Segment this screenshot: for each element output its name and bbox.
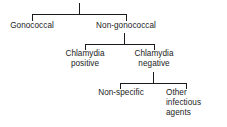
node-other-infectious-agents: Other infectious agents <box>166 88 201 119</box>
classification-tree-diagram: Gonococcal Non-gonococcal Chlamydia posi… <box>0 0 227 127</box>
node-non-gonococcal: Non-gonococcal <box>96 21 156 31</box>
node-non-specific: Non-specific <box>98 88 144 98</box>
node-chlamydia-positive: Chlamydia positive <box>65 49 104 69</box>
node-chlamydia-negative: Chlamydia negative <box>134 49 173 69</box>
node-gonococcal: Gonococcal <box>10 21 54 31</box>
